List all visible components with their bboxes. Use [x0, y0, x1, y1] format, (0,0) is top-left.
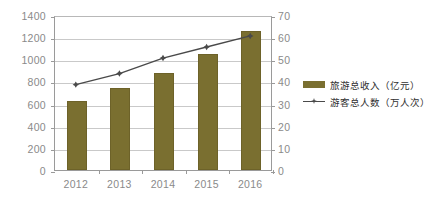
line-marker-swatch-icon: [303, 97, 325, 106]
axis-tick: [51, 17, 55, 18]
bar: [241, 31, 261, 171]
axis-tick: [51, 128, 55, 129]
left-axis-tick-label: 200: [0, 143, 46, 155]
gridline: [55, 61, 271, 62]
axis-tick: [51, 106, 55, 107]
axis-tick: [271, 39, 275, 40]
legend-item-visitors[interactable]: 游客总人数（万人次）: [303, 93, 430, 110]
axis-tick: [271, 17, 275, 18]
axis-tick: [271, 83, 275, 84]
axis-tick: [99, 170, 100, 174]
plot-area: [54, 16, 272, 171]
x-axis-tick-label: 2014: [151, 178, 176, 190]
left-axis-tick-label: 800: [0, 76, 46, 88]
chart-legend: 旅游总收入（亿元） 游客总人数（万人次）: [303, 76, 430, 110]
legend-item-label: 游客总人数（万人次）: [330, 95, 430, 109]
right-axis-tick-label: 0: [278, 165, 308, 177]
axis-tick: [271, 106, 275, 107]
bar-swatch-icon: [303, 81, 325, 88]
axis-tick: [271, 150, 275, 151]
bar: [198, 54, 218, 170]
legend-item-revenue[interactable]: 旅游总收入（亿元）: [303, 76, 430, 93]
axis-tick: [273, 170, 274, 174]
combo-chart: 0200400600800100012001400 01020304050607…: [0, 0, 432, 204]
left-axis-tick-label: 0: [0, 165, 46, 177]
x-axis-tick-label: 2015: [194, 178, 219, 190]
right-axis-tick-label: 60: [278, 32, 308, 44]
left-axis-tick-label: 1400: [0, 10, 46, 22]
bar: [110, 88, 130, 170]
gridline: [55, 39, 271, 40]
left-axis-tick-label: 1200: [0, 32, 46, 44]
x-axis-tick-label: 2013: [107, 178, 132, 190]
left-axis-tick-label: 600: [0, 99, 46, 111]
axis-tick: [51, 39, 55, 40]
axis-tick: [51, 83, 55, 84]
right-axis-tick-label: 10: [278, 143, 308, 155]
axis-tick: [142, 170, 143, 174]
x-axis-tick-label: 2016: [238, 178, 263, 190]
axis-tick: [51, 150, 55, 151]
right-axis-tick-label: 20: [278, 121, 308, 133]
right-axis-tick-label: 70: [278, 10, 308, 22]
axis-tick: [186, 170, 187, 174]
axis-tick: [51, 61, 55, 62]
axis-tick: [271, 61, 275, 62]
bar: [67, 101, 87, 170]
legend-item-label: 旅游总收入（亿元）: [330, 78, 420, 92]
right-axis-tick-label: 50: [278, 54, 308, 66]
x-axis-tick-label: 2012: [64, 178, 89, 190]
axis-tick: [229, 170, 230, 174]
left-axis-tick-label: 400: [0, 121, 46, 133]
bar: [154, 73, 174, 170]
left-axis-tick-label: 1000: [0, 54, 46, 66]
axis-tick: [271, 128, 275, 129]
axis-tick: [51, 172, 55, 173]
